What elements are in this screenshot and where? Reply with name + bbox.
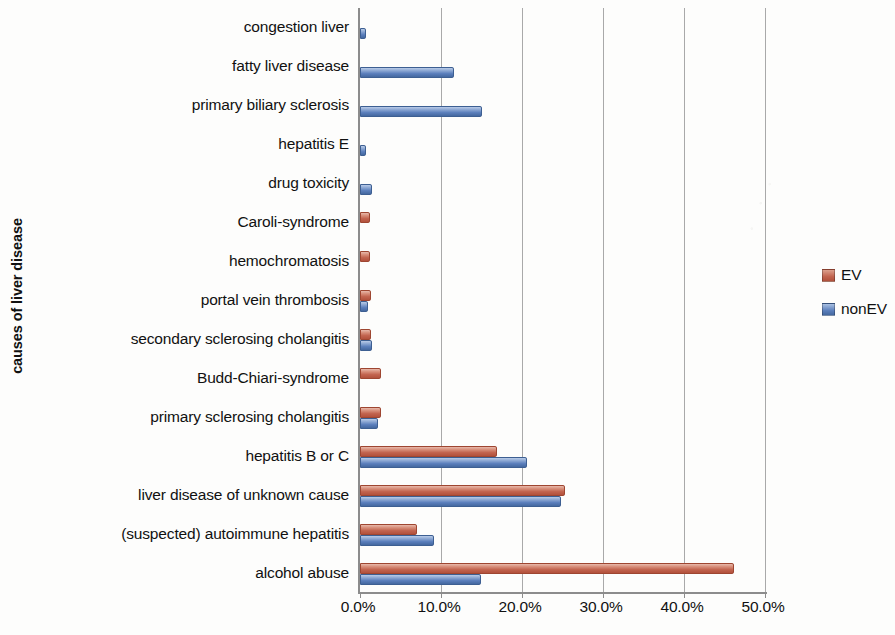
bar-nonev (360, 457, 527, 468)
bar-nonev (360, 145, 366, 156)
category-row: congestion liver (360, 8, 765, 47)
category-row: hepatitis B or C (360, 436, 765, 475)
bar-group (360, 358, 765, 397)
x-axis-tick-label: 0.0% (341, 598, 376, 616)
category-row: fatty liver disease (360, 47, 765, 86)
y-axis-title: causes of liver disease (0, 0, 34, 592)
category-label: primary biliary sclerosis (192, 96, 349, 114)
bar-ev (360, 329, 371, 340)
category-label: hepatitis E (278, 135, 349, 153)
bar-group (360, 397, 765, 436)
bar-group (360, 475, 765, 514)
x-axis-tick-label: 50.0% (742, 598, 785, 616)
category-row: drug toxicity (360, 164, 765, 203)
category-label: (suspected) autoimmune hepatitis (121, 525, 349, 543)
bar-ev (360, 407, 381, 418)
bar-nonev (360, 106, 482, 117)
bar-nonev (360, 184, 372, 195)
bar-ev (360, 485, 565, 496)
bar-nonev (360, 301, 368, 312)
x-axis-tick-labels: 0.0%10.0%20.0%30.0%40.0%50.0% (358, 598, 763, 626)
bar-group (360, 319, 765, 358)
category-label: congestion liver (244, 18, 349, 36)
bar-group (360, 164, 765, 203)
category-row: (suspected) autoimmune hepatitis (360, 514, 765, 553)
bar-ev (360, 368, 381, 379)
bar-chart: causes of liver disease congestion liver… (0, 0, 895, 635)
bar-group (360, 281, 765, 320)
bar-group (360, 514, 765, 553)
category-row: Budd-Chiari-syndrome (360, 358, 765, 397)
bar-ev (360, 212, 370, 223)
category-label: hepatitis B or C (245, 447, 349, 465)
category-row: Caroli-syndrome (360, 203, 765, 242)
gridline (765, 8, 766, 592)
bar-nonev (360, 574, 481, 585)
category-row: hemochromatosis (360, 242, 765, 281)
bar-ev (360, 446, 497, 457)
category-label: portal vein thrombosis (201, 291, 349, 309)
category-row: portal vein thrombosis (360, 281, 765, 320)
legend-swatch-icon (822, 269, 835, 282)
bar-group (360, 47, 765, 86)
plot-area: congestion liverfatty liver diseaseprima… (358, 8, 765, 592)
legend: EVnonEV (822, 258, 895, 326)
category-label: alcohol abuse (255, 564, 349, 582)
x-axis-line (358, 592, 767, 594)
x-axis-tick-label: 20.0% (499, 598, 542, 616)
legend-label: EV (841, 266, 861, 284)
bar-nonev (360, 535, 434, 546)
category-label: liver disease of unknown cause (138, 486, 349, 504)
bar-nonev (360, 418, 378, 429)
bar-group (360, 8, 765, 47)
category-label: Budd-Chiari-syndrome (197, 369, 349, 387)
x-axis-tick-label: 10.0% (418, 598, 461, 616)
category-row: secondary sclerosing cholangitis (360, 319, 765, 358)
category-label: fatty liver disease (232, 57, 349, 75)
category-row: primary sclerosing cholangitis (360, 397, 765, 436)
bar-nonev (360, 28, 366, 39)
legend-swatch-icon (822, 303, 835, 316)
legend-item-nonev[interactable]: nonEV (822, 292, 895, 326)
bar-nonev (360, 67, 454, 78)
bar-ev (360, 251, 370, 262)
category-row: hepatitis E (360, 125, 765, 164)
bar-group (360, 242, 765, 281)
bar-group (360, 553, 765, 592)
category-label: drug toxicity (268, 174, 349, 192)
bar-group (360, 436, 765, 475)
category-label: secondary sclerosing cholangitis (131, 330, 349, 348)
category-label: Caroli-syndrome (238, 213, 349, 231)
bar-group (360, 86, 765, 125)
bar-ev (360, 524, 417, 535)
bar-ev (360, 563, 734, 574)
x-axis-tick-label: 40.0% (661, 598, 704, 616)
category-row: alcohol abuse (360, 553, 765, 592)
bar-group (360, 203, 765, 242)
bar-group (360, 125, 765, 164)
legend-item-ev[interactable]: EV (822, 258, 895, 292)
category-label: hemochromatosis (229, 252, 349, 270)
category-label: primary sclerosing cholangitis (150, 408, 349, 426)
category-row: liver disease of unknown cause (360, 475, 765, 514)
category-row: primary biliary sclerosis (360, 86, 765, 125)
legend-label: nonEV (841, 300, 887, 318)
x-axis-tick-label: 30.0% (580, 598, 623, 616)
bar-nonev (360, 340, 372, 351)
y-axis-title-label: causes of liver disease (9, 218, 25, 374)
category-rows: congestion liverfatty liver diseaseprima… (360, 8, 765, 592)
bar-ev (360, 290, 371, 301)
bar-nonev (360, 496, 561, 507)
